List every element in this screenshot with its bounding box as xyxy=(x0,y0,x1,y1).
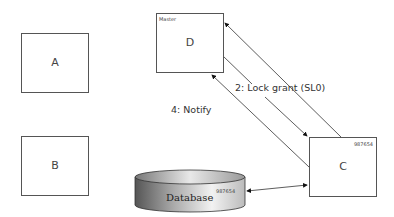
node-d-label: D xyxy=(157,36,223,49)
database-label: Database xyxy=(166,192,213,203)
arrow-d-to-c-part1 xyxy=(223,56,252,84)
node-database[interactable]: Database 987654 xyxy=(134,168,246,214)
database-tag: 987654 xyxy=(216,188,235,194)
node-d[interactable]: Master D xyxy=(156,13,224,73)
node-c-tag: 987654 xyxy=(354,141,373,147)
edge-label-notify: 4: Notify xyxy=(171,104,211,115)
edge-label-lock-grant: 2: Lock grant (SL0) xyxy=(235,82,325,93)
node-c[interactable]: 987654 C xyxy=(309,137,377,197)
arrow-d-to-c-part2 xyxy=(265,97,307,136)
arrow-c-to-d xyxy=(225,23,341,137)
node-c-label: C xyxy=(310,160,376,173)
arrow-db-c xyxy=(247,185,307,191)
node-a-label: A xyxy=(22,56,88,69)
node-b[interactable]: B xyxy=(21,136,89,196)
node-a[interactable]: A xyxy=(21,33,89,93)
node-b-label: B xyxy=(22,159,88,172)
node-d-tag: Master xyxy=(159,16,176,22)
